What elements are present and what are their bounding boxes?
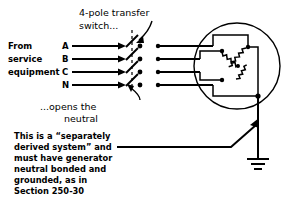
note-leader-arrow: [250, 118, 259, 128]
conductor-label-c: C: [62, 67, 68, 77]
generator-terminal-c: [220, 78, 224, 82]
source-label-line3: equipment: [8, 67, 60, 77]
note-line-3: must have generator: [14, 153, 113, 163]
note-line-6: Section 250-30: [14, 186, 84, 196]
note-line-5: grounded, as in: [14, 175, 87, 185]
switch-label-leader: [136, 21, 152, 43]
gen-wire-start-c: [156, 70, 160, 74]
neutral-leader-line: [131, 88, 140, 100]
feeder-arrow-c: [118, 69, 126, 76]
wiring-diagram: 4-pole transfer switch... ...opens the n…: [0, 0, 295, 205]
conductor-label-n: N: [62, 80, 69, 90]
conductor-label-b: B: [62, 54, 68, 64]
generator-neutral-bus: [248, 47, 258, 96]
note-leader-line: [117, 125, 256, 147]
gen-lead-c: [200, 72, 222, 80]
switch-label-line2: switch...: [79, 20, 118, 31]
neutral-label-line2: neutral: [64, 113, 98, 124]
gen-lead-n: [213, 85, 258, 96]
gen-lead-b: [200, 51, 222, 59]
source-feeder-conductors: [72, 43, 126, 89]
note-line-1: This is a “separately: [14, 131, 111, 141]
note-line-2: derived system” and: [14, 142, 112, 152]
figure-canvas: 4-pole transfer switch... ...opens the n…: [0, 0, 295, 205]
generator: [194, 23, 280, 109]
gen-lead-a: [213, 35, 248, 47]
switch-terminal-c: [138, 70, 143, 75]
source-label-line1: From: [8, 41, 32, 51]
generator-neutral-star-point: [236, 64, 240, 68]
generator-terminal-b: [220, 49, 224, 53]
gen-wire-start-a: [156, 44, 160, 48]
switch-terminal-a: [138, 44, 143, 49]
note-leader: [117, 118, 259, 147]
gen-wire-start-n: [156, 83, 160, 87]
source-label-line2: service: [8, 54, 43, 64]
feeder-arrow-n: [118, 82, 126, 89]
neutral-label-line1: ...opens the: [40, 101, 96, 112]
generator-coil-2: [222, 52, 239, 67]
neutral-leader-arrow: [127, 84, 134, 92]
switch-leader-line: [139, 21, 152, 40]
note-line-4: neutral bonded and: [14, 164, 106, 174]
switch-label-line1: 4-pole transfer: [79, 7, 149, 18]
feeder-arrow-b: [118, 56, 126, 63]
conductor-label-a: A: [62, 41, 69, 51]
gen-wire-start-b: [156, 57, 160, 61]
switch-terminal-n: [138, 83, 143, 88]
switch-terminal-b: [138, 57, 143, 62]
feeder-arrow-a: [118, 43, 126, 50]
neutral-label-leader: [127, 84, 140, 100]
